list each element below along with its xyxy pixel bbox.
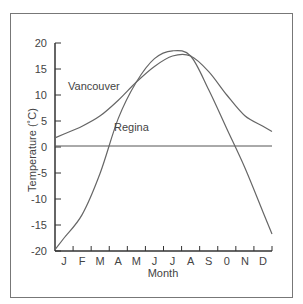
y-tick-label: 15 — [35, 63, 47, 75]
x-tick-label: S — [205, 255, 212, 267]
vancouver-line — [55, 54, 272, 138]
x-tick-label: M — [96, 255, 105, 267]
y-tick-label: 0 — [41, 141, 47, 153]
y-tick-label: 20 — [35, 37, 47, 49]
x-axis: JFMAMJJAS0ND — [55, 246, 272, 267]
x-tick-label: D — [259, 255, 267, 267]
x-tick-label: J — [170, 255, 176, 267]
x-tick-label: J — [152, 255, 158, 267]
vancouver-label: Vancouver — [68, 80, 120, 92]
x-tick-label: 0 — [224, 255, 230, 267]
x-tick-label: A — [187, 255, 195, 267]
temperature-chart: 20151050-5-10-15-20 JFMAMJJAS0ND Vancouv… — [0, 0, 303, 304]
y-tick-label: -20 — [31, 245, 47, 257]
x-tick-label: A — [115, 255, 123, 267]
x-tick-label: F — [79, 255, 86, 267]
regina-label: Regina — [114, 121, 150, 133]
y-tick-label: -5 — [37, 167, 47, 179]
y-tick-label: 5 — [41, 115, 47, 127]
y-tick-label: -15 — [31, 219, 47, 231]
y-axis-title: Temperature (˚C) — [26, 108, 38, 192]
x-tick-label: M — [132, 255, 141, 267]
x-axis-title: Month — [148, 267, 179, 279]
y-tick-label: -10 — [31, 193, 47, 205]
y-tick-label: 10 — [35, 89, 47, 101]
x-tick-label: N — [241, 255, 249, 267]
x-tick-label: J — [61, 255, 67, 267]
